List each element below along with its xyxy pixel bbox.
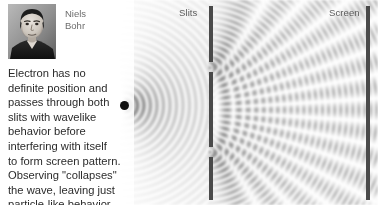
barrier-segment — [209, 72, 213, 147]
double-slit-figure: Slits Screen — [0, 0, 378, 205]
screen-label: Screen — [329, 7, 360, 18]
explanation-caption: Electron has no definite position and pa… — [8, 66, 160, 205]
barrier-segment — [209, 157, 213, 200]
scientist-name: Niels Bohr — [65, 4, 86, 32]
slits-label: Slits — [179, 7, 197, 18]
niels-bohr-portrait-photo — [8, 4, 56, 59]
detection-screen-bar — [366, 6, 370, 200]
scientist-card: Niels Bohr — [8, 4, 86, 59]
barrier-segment — [209, 6, 213, 62]
